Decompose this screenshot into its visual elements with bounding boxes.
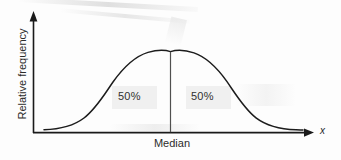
chart-canvas (0, 0, 341, 160)
median-axis-label: Median (146, 137, 198, 149)
x-axis-label: x (320, 125, 325, 136)
percent-label-right: 50% (191, 90, 214, 102)
y-axis-arrowhead (30, 11, 38, 22)
normal-distribution-curve (44, 50, 303, 130)
x-axis-arrowhead (304, 129, 314, 137)
percent-label-left: 50% (118, 90, 141, 102)
bell-curve-figure: 50% 50% Median x Relative frequency (0, 0, 341, 160)
y-axis-label: Relative frequency (16, 14, 28, 134)
